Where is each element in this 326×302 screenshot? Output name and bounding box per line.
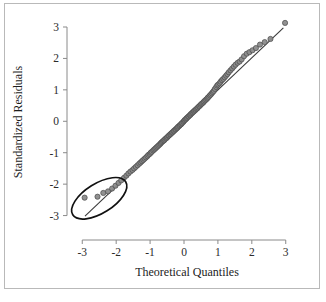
plot-area xyxy=(65,20,288,227)
qq-plot-canvas: -3-2-10123 -3-2-10123 Theoretical Quanti… xyxy=(5,4,319,288)
y-axis: -3-2-10123 xyxy=(49,21,67,222)
x-tick-label: 0 xyxy=(181,246,187,258)
x-tick-label: -3 xyxy=(77,246,87,258)
data-points xyxy=(82,20,288,200)
y-tick-label: 2 xyxy=(53,52,59,64)
x-tick-label: -2 xyxy=(111,246,121,258)
data-point xyxy=(262,39,267,44)
y-axis-title: Standardized Residuals xyxy=(11,66,25,179)
x-axis: -3-2-10123 xyxy=(77,240,288,258)
y-tick-label: -1 xyxy=(49,147,59,159)
x-tick-label: 2 xyxy=(249,246,255,258)
data-point xyxy=(268,36,273,41)
x-tick-label: 3 xyxy=(283,246,289,258)
y-tick-label: -3 xyxy=(49,210,59,222)
y-tick-label: 3 xyxy=(53,21,59,33)
x-axis-title: Theoretical Quantiles xyxy=(135,265,239,279)
data-point xyxy=(82,195,87,200)
data-point xyxy=(257,42,262,47)
x-tick-label: -1 xyxy=(145,246,155,258)
y-tick-label: -2 xyxy=(49,178,59,190)
figure-frame: -3-2-10123 -3-2-10123 Theoretical Quanti… xyxy=(4,3,320,289)
y-tick-label: 1 xyxy=(53,84,59,96)
data-point xyxy=(282,20,287,25)
data-point xyxy=(95,194,100,199)
y-tick-label: 0 xyxy=(53,115,59,127)
x-tick-label: 1 xyxy=(215,246,221,258)
